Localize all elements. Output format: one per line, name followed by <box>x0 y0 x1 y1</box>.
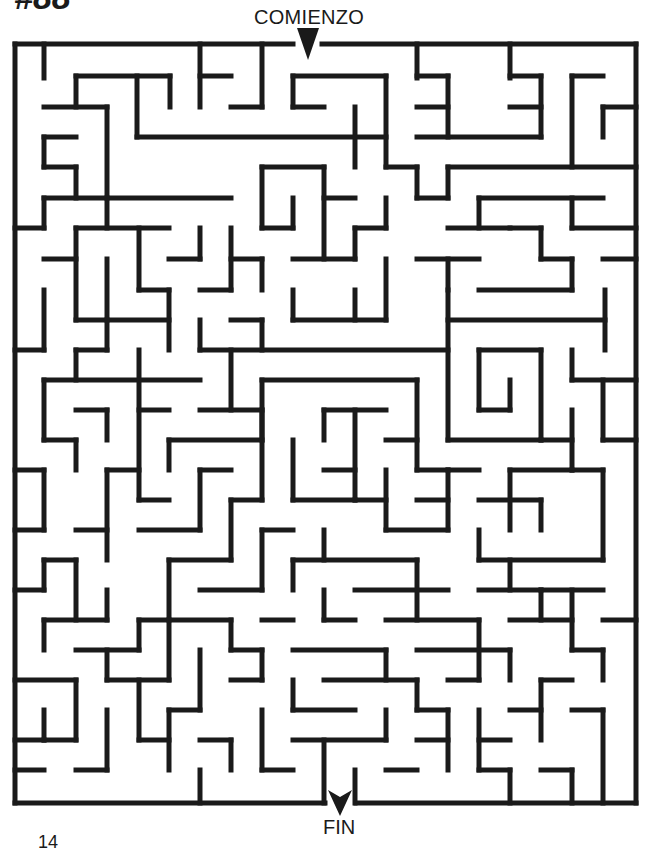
maze-board[interactable] <box>0 0 656 858</box>
start-arrow-icon <box>297 28 319 60</box>
end-label: FIN <box>323 816 355 839</box>
maze-walls <box>15 44 636 803</box>
end-arrow-icon <box>328 790 352 816</box>
page-number: 14 <box>38 832 58 853</box>
